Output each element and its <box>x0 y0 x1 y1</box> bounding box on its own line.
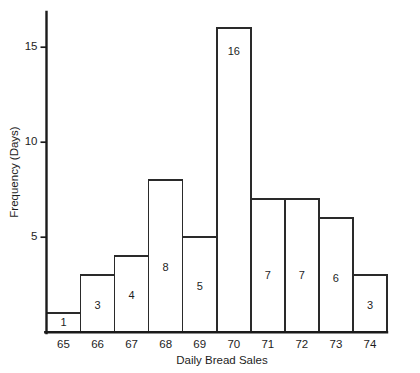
x-axis-tick-label: 66 <box>91 338 104 350</box>
histogram-bar <box>217 28 251 332</box>
histogram-bar <box>149 180 183 332</box>
bar-value-label: 6 <box>333 272 339 284</box>
x-axis-tick-label: 68 <box>159 338 172 350</box>
histogram-bar <box>251 199 285 332</box>
x-axis-tick-label: 69 <box>193 338 206 350</box>
x-axis-ticks-group: 65666768697071727374 <box>57 338 377 350</box>
bar-value-label: 4 <box>129 289 135 301</box>
y-axis-tick-label: 10 <box>25 135 38 147</box>
x-axis-tick-label: 70 <box>227 338 240 350</box>
y-axis-tick-label: 5 <box>31 230 37 242</box>
histogram-figure: 13485167763 51015 65666768697071727374 D… <box>0 0 420 373</box>
x-axis-tick-label: 71 <box>261 338 274 350</box>
bar-value-label: 1 <box>60 316 66 328</box>
bars-group <box>47 28 388 332</box>
bar-value-label: 8 <box>163 261 169 273</box>
bar-value-label: 16 <box>228 45 240 57</box>
bar-value-label: 7 <box>265 269 271 281</box>
bar-value-label: 3 <box>367 299 373 311</box>
bar-value-label: 5 <box>197 280 203 292</box>
x-axis-tick-label: 67 <box>125 338 138 350</box>
x-axis-tick-label: 65 <box>57 338 70 350</box>
x-axis-title: Daily Bread Sales <box>176 354 268 366</box>
x-axis-tick-label: 72 <box>295 338 308 350</box>
bar-value-label: 3 <box>95 299 101 311</box>
y-axis-tick-label: 15 <box>25 40 38 52</box>
bar-value-label: 7 <box>299 269 305 281</box>
histogram-chart: 13485167763 51015 65666768697071727374 D… <box>0 0 420 373</box>
y-axis-ticks-group: 51015 <box>25 40 47 242</box>
x-axis-tick-label: 74 <box>364 338 377 350</box>
y-axis-title: Frequency (Days) <box>8 126 20 218</box>
x-axis-tick-label: 73 <box>330 338 343 350</box>
histogram-bar <box>285 199 319 332</box>
